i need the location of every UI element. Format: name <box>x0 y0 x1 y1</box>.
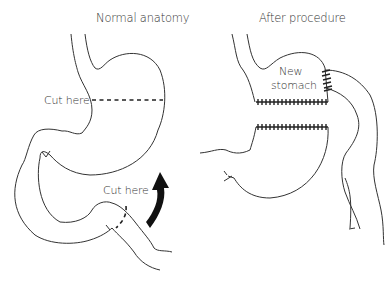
label-stomach: stomach <box>271 79 317 92</box>
panel-title-after-procedure: After procedure <box>259 11 346 25</box>
label-cut-here-intestine: Cut here <box>103 184 149 197</box>
diagram-canvas <box>0 0 388 286</box>
arrow-up-icon <box>146 172 169 228</box>
normal-anatomy-drawing <box>15 34 172 270</box>
staple-line-anastomosis <box>322 70 332 91</box>
panel-title-normal-anatomy: Normal anatomy <box>96 11 189 25</box>
label-cut-here-stomach: Cut here <box>44 94 90 107</box>
label-new: New <box>279 65 302 78</box>
